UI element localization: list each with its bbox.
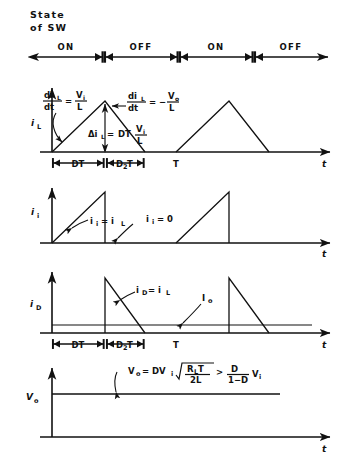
id-equals-il-leader — [120, 292, 135, 300]
dim2-dt-label: DT — [72, 340, 85, 350]
vo-equation: V o = DV i R L T 2L > D 1−D V i — [128, 363, 261, 385]
state-title-line2: of SW — [30, 22, 67, 33]
slope-on-num: di — [44, 90, 53, 100]
dim-period-label: T — [173, 159, 179, 169]
delta-il-coef: DT — [118, 129, 131, 139]
vo-eq-radical-num-tail: T — [198, 364, 204, 374]
id-equals-il-sub2: L — [166, 289, 170, 297]
slope-off-rden: L — [169, 103, 175, 113]
vo-eq-frac-num: D — [231, 364, 238, 374]
ii-equals-il-sub1: i — [96, 220, 98, 228]
dim2-period-label: T — [173, 340, 179, 350]
ii-zero-sub1: i — [152, 218, 154, 226]
vo-eq-compare: > — [216, 367, 223, 377]
vo-label-main: V — [26, 392, 34, 402]
dim2-d2t-tail: T — [127, 340, 133, 350]
il-label-sub: L — [37, 123, 41, 131]
dim-dt-label: DT — [72, 159, 85, 169]
dim-d2t-tail: T — [127, 159, 133, 169]
ii-axis-label: i i — [31, 207, 39, 220]
delta-il-lead-sub: L — [101, 133, 105, 140]
id-dimension-row: DT D 2 T T t — [53, 340, 327, 352]
slope-on-leader — [53, 113, 62, 142]
vo-eq-lhs: V — [128, 366, 135, 376]
state-of-sw-title: State of SW — [30, 9, 67, 33]
waveform-figure: State of SW ON OFF ON OFF i L di L dt — [0, 0, 337, 454]
state-label-off-1: OFF — [129, 42, 152, 52]
il-waveform-cycle-2 — [176, 101, 269, 152]
id-equals-il-sym: i — [136, 285, 139, 295]
vo-eq-radical-den: 2L — [190, 375, 202, 385]
ii-time-axis-label: t — [322, 249, 327, 259]
output-current-sub: o — [208, 297, 213, 305]
vo-eq-tail-sub: i — [259, 373, 261, 381]
vo-equation-leader — [115, 372, 117, 392]
delta-il-rden: L — [137, 136, 143, 146]
slope-on-den: dt — [44, 102, 54, 112]
annotation-id-equals-il: i D = i L — [120, 285, 170, 300]
slope-on-rnum: V — [76, 90, 83, 100]
il-time-axis-label: t — [322, 159, 327, 169]
slope-off-rnum-sub: o — [175, 95, 179, 102]
vo-eq-equals: = — [142, 366, 149, 376]
dim-d2t-label: D — [116, 159, 123, 169]
annotation-ii-equals-il: i i = i L — [72, 216, 125, 228]
ii-label-sub: i — [37, 212, 39, 220]
slope-on-num-sub: L — [57, 94, 61, 101]
il-dimension-row: DT D 2 T T t — [53, 159, 327, 171]
panel-input-current: i i i i = i L i i = 0 t — [31, 188, 330, 259]
vo-eq-tail: V — [252, 369, 259, 379]
il-axis-label: i L — [31, 118, 41, 131]
dim2-d2t-label: D — [116, 340, 123, 350]
ii-equals-il-mid: = i — [101, 216, 114, 226]
slope-off-den: dt — [128, 103, 138, 113]
ii-waveform-cycle-1 — [52, 192, 105, 243]
slope-off-num-sub: L — [141, 95, 145, 102]
figure-canvas: State of SW ON OFF ON OFF i L di L dt — [0, 0, 337, 454]
vo-eq-radical-num: R — [187, 364, 194, 374]
switch-state-bar: ON OFF ON OFF — [30, 42, 328, 57]
panel-output-voltage: V o V o = DV i R L T 2L > D 1−D V i t — [26, 363, 330, 454]
state-title-line1: State — [30, 9, 65, 20]
id-label-sub: D — [36, 304, 42, 312]
vo-eq-gain: DV — [152, 366, 166, 376]
annotation-slope-off: di L dt = − V o L — [112, 91, 179, 113]
state-label-off-2: OFF — [279, 42, 302, 52]
ii-label-main: i — [31, 207, 35, 217]
panel-inductor-current: i L di L dt = V i L di L dt = − V o — [31, 88, 330, 171]
annotation-ii-zero: i i = 0 — [118, 214, 173, 238]
vo-eq-lhs-sub: o — [136, 370, 141, 378]
il-label-main: i — [31, 118, 35, 128]
id-label-main: i — [30, 299, 34, 309]
ii-zero-mid: = 0 — [157, 214, 173, 224]
ii-equals-il-sub2: L — [121, 220, 125, 228]
ii-equals-il-sym: i — [90, 216, 93, 226]
delta-il-rnum: V — [136, 124, 143, 134]
vo-time-axis-label: t — [322, 444, 327, 454]
state-label-on-1: ON — [57, 42, 74, 52]
delta-il-lead: Δi — [88, 129, 98, 139]
vo-label-sub: o — [34, 397, 39, 405]
slope-off-rnum: V — [168, 91, 175, 101]
slope-off-num: di — [128, 91, 137, 101]
slope-on-rnum-sub: i — [83, 94, 85, 101]
delta-il-rnum-sub: i — [143, 128, 145, 135]
output-current-leader — [183, 304, 201, 323]
id-axis-label: i D — [30, 299, 42, 312]
id-time-axis-label: t — [322, 340, 327, 350]
vo-eq-gain-sub: i — [171, 370, 173, 378]
ii-zero-sym: i — [146, 214, 149, 224]
id-equals-il-mid: = i — [148, 285, 161, 295]
slope-on-equals: = — [65, 96, 72, 106]
slope-off-equals: = − — [149, 97, 166, 107]
slope-on-rden: L — [77, 102, 83, 112]
vo-axis-label: V o — [26, 392, 39, 405]
annotation-slope-on: di L dt = V i L — [43, 90, 87, 142]
output-current-sym: I — [202, 293, 205, 303]
state-label-on-2: ON — [207, 42, 224, 52]
delta-il-equals: = — [107, 129, 114, 139]
ii-waveform-cycle-2 — [176, 192, 229, 243]
panel-diode-current: i D i D = i L I o DT D 2 T T t — [30, 272, 330, 352]
vo-eq-frac-den: 1−D — [228, 375, 248, 385]
annotation-output-current: I o — [183, 293, 213, 323]
